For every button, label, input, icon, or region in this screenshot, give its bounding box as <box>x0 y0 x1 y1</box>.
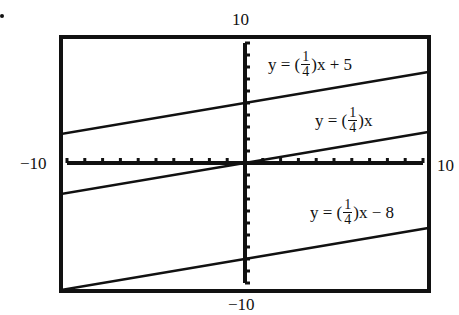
equation-label-line2: y = ( 14 )x <box>315 106 372 135</box>
y-min-label: −10 <box>228 295 255 315</box>
equation-label-line1: y = ( 14 )x + 5 <box>268 50 352 79</box>
y-max-label: 10 <box>232 10 249 30</box>
x-max-label: 10 <box>437 156 454 176</box>
x-min-label: −10 <box>20 154 47 174</box>
equation-label-line3: y = ( 14 )x − 8 <box>310 198 394 227</box>
plot-area <box>0 0 459 315</box>
